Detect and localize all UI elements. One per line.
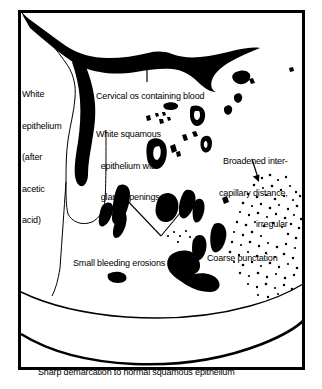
label-coarse-punctation: Coarse punctation xyxy=(207,232,278,285)
label-line: capillary distance, xyxy=(219,188,288,199)
label-line: epithelium with xyxy=(96,161,161,172)
stipple-dot xyxy=(177,241,179,243)
label-sharp-demarcation: Sharp demarcation to normal squamous epi… xyxy=(38,346,235,389)
label-line: irregular xyxy=(219,219,288,230)
stipple-dot xyxy=(189,236,191,238)
stipple-dot xyxy=(173,231,175,233)
colposcopy-figure: White epithelium (after acetic acid) Cer… xyxy=(0,0,322,389)
label-line: Coarse punctation xyxy=(207,253,278,264)
label-line: gland openings xyxy=(96,192,161,203)
label-line: Broadened inter- xyxy=(219,156,288,167)
stipple-dot xyxy=(185,230,187,232)
label-small-bleeding-erosions: Small bleeding erosions xyxy=(73,237,165,290)
label-line: acid) xyxy=(22,215,62,226)
label-white-epithelium: White epithelium (after acetic acid) xyxy=(22,68,62,247)
label-line: Small bleeding erosions xyxy=(73,258,165,269)
label-white-squamous-epithelium: White squamous epithelium with gland ope… xyxy=(96,108,161,224)
label-line: epithelium xyxy=(22,121,62,132)
label-line: Sharp demarcation to normal squamous epi… xyxy=(38,367,235,378)
label-line: Cervical os containing blood xyxy=(96,91,204,102)
stipple-dot xyxy=(179,235,181,237)
label-line: White xyxy=(22,89,62,100)
label-line: acetic xyxy=(22,184,62,195)
label-line: (after xyxy=(22,152,62,163)
stipple-dot xyxy=(167,235,169,237)
label-line: White squamous xyxy=(96,129,161,140)
